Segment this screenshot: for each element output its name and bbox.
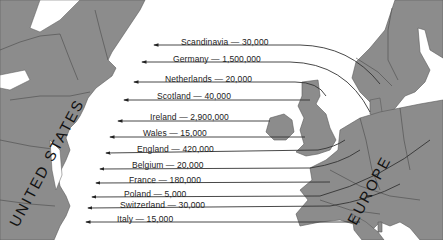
migration-label-ireland: Ireland — 2,900,000 <box>150 112 229 122</box>
migration-label-england: England — 420,000 <box>137 144 214 154</box>
migration-label-germany: Germany — 1,500,000 <box>173 54 261 64</box>
migration-label-poland: Poland — 5,000 <box>124 189 186 199</box>
migration-label-scotland: Scotland — 40,000 <box>157 91 231 101</box>
immigration-map: UNITED STATES EUROPE Scandinavia — 30,00… <box>0 0 443 240</box>
migration-label-italy: Italy — 15,000 <box>117 214 173 224</box>
migration-label-netherlands: Netherlands — 20,000 <box>165 74 252 84</box>
migration-label-france: France — 180,000 <box>129 175 201 185</box>
migration-label-scandinavia: Scandinavia — 30,000 <box>181 37 269 47</box>
migration-label-switzerland: Switzerland — 30,000 <box>120 200 205 210</box>
migration-label-belgium: Belgium — 20,000 <box>132 160 204 170</box>
migration-label-wales: Wales — 15,000 <box>143 128 207 138</box>
arrow-germany <box>142 62 370 112</box>
